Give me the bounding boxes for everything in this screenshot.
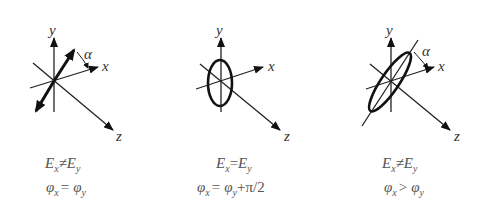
z-label: z: [115, 128, 122, 144]
amplitude-condition: Ex≠Ey: [381, 155, 418, 174]
amplitude-condition: Ex≠Ey: [44, 155, 81, 174]
amplitude-condition: Ex=Ey: [215, 155, 252, 174]
phase-condition: φx=φy: [46, 179, 87, 198]
alpha-label: α: [84, 46, 93, 62]
y-label: y: [384, 22, 393, 38]
panel-elliptical: y x z α: [362, 22, 460, 144]
z-label: z: [283, 128, 290, 144]
alpha-label: α: [422, 43, 431, 59]
equations-panel-3: Ex≠Ey φx>φy: [381, 155, 425, 198]
equations-panel-2: Ex=Ey φx=φy+π/2: [197, 155, 265, 198]
panel-linear: y x z α: [30, 22, 122, 144]
equations-panel-1: Ex≠Ey φx=φy: [44, 155, 87, 198]
panel-circular: y x z: [196, 22, 290, 144]
x-label: x: [437, 58, 445, 74]
x-label: x: [267, 58, 275, 74]
z-label: z: [453, 128, 460, 144]
y-label: y: [47, 22, 56, 38]
field-vector-up: [54, 50, 74, 81]
polarization-circle: [208, 60, 232, 106]
phase-condition: φx>φy: [384, 179, 425, 198]
phase-condition: φx=φy+π/2: [197, 179, 265, 198]
x-axis: [30, 67, 98, 88]
x-label: x: [101, 58, 109, 74]
y-label: y: [214, 22, 223, 38]
polarization-diagram: y x z α y x z y x z α Ex≠Ey φx=φy Ex=Ey …: [0, 0, 477, 221]
